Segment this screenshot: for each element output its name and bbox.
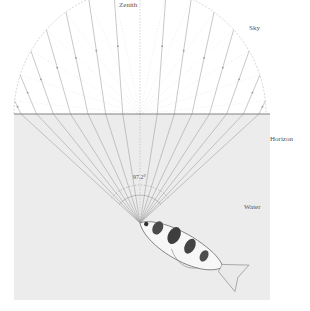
sky-ray	[192, 12, 214, 114]
ray-marker-dot	[117, 45, 119, 47]
ray-marker-dot	[252, 92, 254, 94]
guide-line	[140, 0, 191, 114]
ray-marker-dot	[262, 106, 264, 108]
guide-line	[31, 51, 140, 114]
ray-marker-dot	[95, 50, 97, 52]
snells-window-diagram: Zenith Sky Horizon Water 97.2°	[0, 0, 310, 311]
sky-label: Sky	[249, 24, 260, 32]
guide-line	[89, 0, 140, 114]
sky-ray	[89, 0, 106, 114]
water-label: Water	[244, 203, 261, 211]
ray-marker-dot	[75, 57, 77, 59]
guide-line	[140, 101, 265, 114]
guide-line	[114, 0, 140, 114]
sky-ray	[243, 75, 259, 114]
guide-line	[20, 75, 140, 114]
guide-line	[46, 30, 140, 114]
guide-line	[140, 51, 249, 114]
angle-label: 97.2°	[133, 174, 146, 180]
ray-marker-dot	[56, 67, 58, 69]
ray-marker-dot	[238, 78, 240, 80]
ray-marker-dot	[222, 67, 224, 69]
horizon-label: Horizon	[270, 135, 293, 143]
ray-marker-dot	[40, 78, 42, 80]
guide-line	[140, 0, 166, 114]
ray-marker-dot	[17, 106, 19, 108]
zenith-label: Zenith	[119, 1, 137, 9]
sky-ray	[20, 75, 36, 114]
sky-ray	[66, 12, 88, 114]
diagram-canvas	[0, 0, 310, 311]
sky-ray	[174, 0, 191, 114]
ray-marker-dot	[183, 50, 185, 52]
ray-marker-dot	[27, 92, 29, 94]
guide-line	[140, 30, 234, 114]
ray-marker-dot	[161, 45, 163, 47]
guide-line	[140, 75, 260, 114]
sky-ray	[157, 0, 166, 114]
guide-line	[15, 101, 140, 114]
sky-ray	[114, 0, 123, 114]
ray-marker-dot	[203, 57, 205, 59]
